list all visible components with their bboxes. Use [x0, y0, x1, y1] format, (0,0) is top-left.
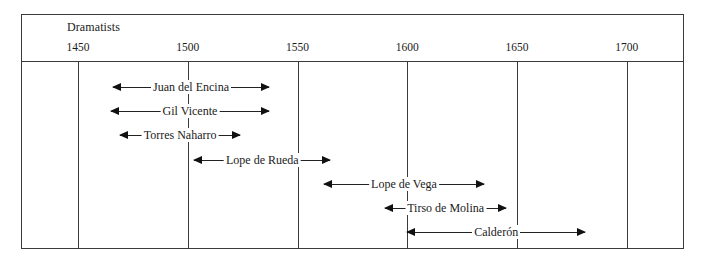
dramatist-name: Gil Vicente: [161, 104, 220, 118]
arrow-right-icon: [498, 204, 507, 212]
arrow-right-icon: [261, 83, 270, 91]
lifespan-arrow: Lope de Vega: [324, 177, 484, 191]
arrow-right-icon: [577, 228, 586, 236]
arrow-right-icon: [261, 107, 270, 115]
lifespan-arrow: Lope de Rueda: [194, 153, 330, 167]
dramatist-name: Torres Naharro: [142, 128, 219, 142]
tick-label-1550: 1550: [286, 41, 309, 53]
lifespan-arrow: Tirso de Molina: [385, 201, 506, 215]
arrow-left-icon: [384, 204, 393, 212]
tick-label-1500: 1500: [176, 41, 199, 53]
arrow-right-icon: [232, 131, 241, 139]
lifespan-arrow: Torres Naharro: [120, 128, 241, 142]
arrow-left-icon: [110, 107, 119, 115]
gridline-1650: [517, 61, 518, 249]
arrow-right-icon: [322, 156, 331, 164]
lifespan-arrow: Gil Vicente: [111, 104, 269, 118]
tick-label-1600: 1600: [396, 41, 419, 53]
tick-label-1450: 1450: [67, 41, 90, 53]
gridline-1700: [627, 61, 628, 249]
dramatist-name: Juan del Encina: [151, 80, 231, 94]
dramatists-timeline-chart: Dramatists 145015001550160016501700 Juan…: [0, 0, 702, 265]
tick-label-1650: 1650: [506, 41, 529, 53]
header-divider: [21, 61, 684, 62]
gridline-1600: [407, 61, 408, 249]
dramatist-name: Tirso de Molina: [405, 201, 486, 215]
gridline-1450: [78, 61, 79, 249]
lifespan-arrow: Calderón: [407, 225, 585, 239]
arrow-left-icon: [323, 180, 332, 188]
arrow-left-icon: [193, 156, 202, 164]
arrow-left-icon: [406, 228, 415, 236]
lifespan-arrow: Juan del Encina: [113, 80, 269, 94]
dramatist-name: Lope de Rueda: [224, 153, 301, 167]
dramatist-name: Calderón: [472, 225, 520, 239]
arrow-right-icon: [476, 180, 485, 188]
arrow-left-icon: [112, 83, 121, 91]
arrow-left-icon: [119, 131, 128, 139]
chart-title: Dramatists: [67, 20, 120, 35]
tick-label-1700: 1700: [615, 41, 638, 53]
dramatist-name: Lope de Vega: [369, 177, 439, 191]
